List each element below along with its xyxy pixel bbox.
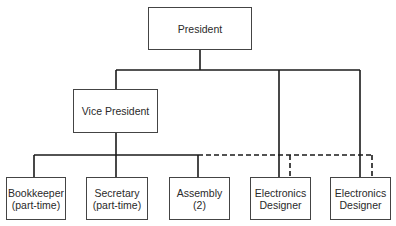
- node-label: Vice President: [82, 105, 150, 117]
- node-secretary: Secretary (part-time): [86, 177, 148, 220]
- node-sublabel: Designer: [339, 199, 381, 211]
- node-sublabel: (part-time): [93, 199, 141, 211]
- node-bookkeeper: Bookkeeper (part-time): [6, 177, 66, 220]
- node-label: Bookkeeper: [8, 187, 64, 199]
- node-president: President: [148, 7, 252, 50]
- node-sublabel: Designer: [259, 199, 301, 211]
- node-label: Electronics: [335, 187, 386, 199]
- node-electronics-designer-1: Electronics Designer: [250, 177, 311, 220]
- node-label: Secretary: [95, 187, 140, 199]
- node-sublabel: (part-time): [12, 199, 60, 211]
- node-vice-president: Vice President: [73, 89, 158, 133]
- node-label: Assembly: [177, 187, 223, 199]
- node-label: President: [178, 23, 222, 35]
- node-sublabel: (2): [193, 199, 206, 211]
- node-electronics-designer-2: Electronics Designer: [330, 177, 391, 220]
- node-label: Electronics: [255, 187, 306, 199]
- node-assembly: Assembly (2): [169, 177, 230, 220]
